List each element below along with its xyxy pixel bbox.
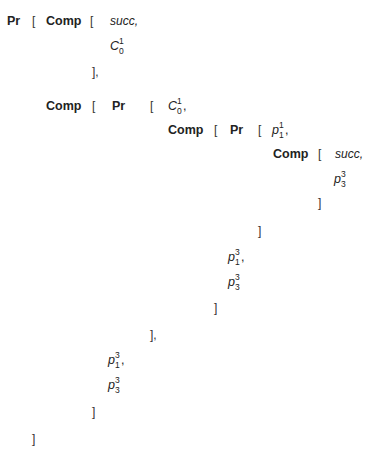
math-symbol: p31, bbox=[108, 353, 124, 367]
bracket: ], bbox=[150, 328, 157, 342]
script-stack: 33 bbox=[235, 275, 241, 289]
math-symbol: C10, bbox=[168, 99, 187, 113]
math-symbol: C10 bbox=[110, 39, 125, 53]
symbol-base: p bbox=[228, 250, 235, 264]
keyword-comp: Comp bbox=[168, 123, 203, 137]
subscript: 1 bbox=[279, 128, 284, 142]
symbol-base: p bbox=[272, 123, 279, 137]
symbol-base: C bbox=[168, 99, 177, 113]
keyword-pr: Pr bbox=[112, 99, 125, 113]
math-symbol: p33 bbox=[108, 378, 121, 392]
symbol-base: C bbox=[110, 39, 119, 53]
bracket: [ bbox=[258, 123, 261, 137]
math-symbol: p31, bbox=[228, 250, 244, 264]
bracket: ] bbox=[92, 405, 95, 419]
subscript: 0 bbox=[119, 44, 124, 58]
bracket: [ bbox=[90, 14, 93, 28]
subscript: 3 bbox=[235, 280, 240, 294]
subscript: 3 bbox=[341, 177, 346, 191]
separator: , bbox=[241, 250, 244, 264]
script-stack: 33 bbox=[341, 172, 347, 186]
script-stack: 33 bbox=[115, 378, 121, 392]
separator: , bbox=[183, 99, 186, 113]
subscript: 0 bbox=[177, 104, 182, 118]
keyword-comp: Comp bbox=[46, 99, 81, 113]
math-symbol: p11, bbox=[272, 123, 288, 137]
bracket: ] bbox=[258, 224, 261, 238]
bracket: [ bbox=[318, 147, 321, 161]
keyword-pr: Pr bbox=[7, 14, 20, 28]
script-stack: 31 bbox=[115, 353, 121, 367]
bracket: [ bbox=[214, 123, 217, 137]
bracket: ] bbox=[32, 432, 35, 446]
separator: , bbox=[121, 353, 124, 367]
bracket: ] bbox=[318, 196, 321, 210]
keyword-comp: Comp bbox=[273, 147, 308, 161]
symbol-base: p bbox=[108, 378, 115, 392]
bracket: [ bbox=[32, 14, 35, 28]
identifier: succ, bbox=[110, 14, 138, 28]
bracket: ], bbox=[92, 65, 99, 79]
keyword-pr: Pr bbox=[230, 123, 243, 137]
script-stack: 10 bbox=[119, 39, 125, 53]
subscript: 1 bbox=[235, 255, 240, 269]
bracket: [ bbox=[150, 99, 153, 113]
script-stack: 11 bbox=[279, 123, 285, 137]
bracket: [ bbox=[92, 99, 95, 113]
identifier: succ, bbox=[335, 147, 363, 161]
subscript: 3 bbox=[115, 383, 120, 397]
bracket: ] bbox=[214, 301, 217, 315]
symbol-base: p bbox=[228, 275, 235, 289]
script-stack: 10 bbox=[177, 99, 183, 113]
math-symbol: p33 bbox=[334, 172, 347, 186]
keyword-comp: Comp bbox=[46, 14, 81, 28]
math-symbol: p33 bbox=[228, 275, 241, 289]
subscript: 1 bbox=[115, 358, 120, 372]
script-stack: 31 bbox=[235, 250, 241, 264]
symbol-base: p bbox=[334, 172, 341, 186]
separator: , bbox=[285, 123, 288, 137]
symbol-base: p bbox=[108, 353, 115, 367]
